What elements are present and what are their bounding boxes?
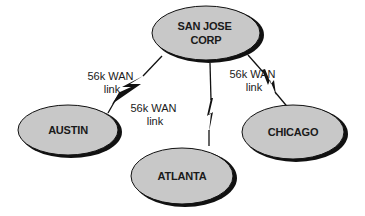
node-label: CHICAGO [268, 126, 319, 138]
node-chicago: CHICAGO [242, 105, 348, 162]
network-diagram: 56k WAN link 56k WAN link 56k WAN link S… [0, 0, 365, 216]
node-san-jose-corp: SAN JOSE CORP [152, 6, 264, 63]
link-label-atlanta: 56k WAN link [130, 102, 179, 127]
lightning-bolt-icon [207, 98, 213, 132]
node-atlanta: ATLANTA [131, 148, 237, 207]
node-label: AUSTIN [48, 124, 88, 136]
link-label-chicago: 56k WAN link [229, 68, 278, 93]
node-austin: AUSTIN [18, 105, 122, 158]
link-sanjose-atlanta [207, 63, 213, 146]
node-label: ATLANTA [158, 170, 207, 182]
